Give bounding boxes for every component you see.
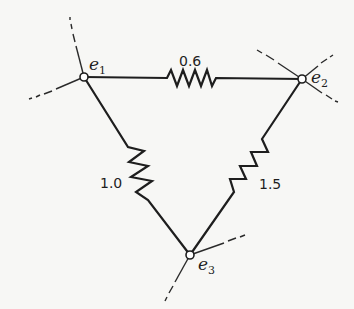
node-label-e2: e2 (311, 67, 328, 90)
resistance-label-e1-e2: 0.6 (179, 53, 201, 69)
node-e3 (186, 251, 194, 259)
stub-e3-upper-right-dash (228, 235, 245, 241)
node-label-e1: e1 (89, 54, 106, 77)
stub-e1-left-dash (29, 91, 52, 99)
edge-e1-e2-resistor (84, 70, 302, 86)
node-e2 (298, 75, 306, 83)
node-e1 (80, 73, 88, 81)
resistance-label-e2-e3: 1.5 (259, 176, 281, 192)
edge-e2-e3-resistor (190, 79, 302, 255)
stub-e2-lower-right-dash (326, 95, 338, 102)
node-label-e3: e3 (198, 254, 215, 277)
stub-e1-up (76, 46, 84, 77)
resistance-label-e1-e3: 1.0 (100, 175, 122, 191)
resistor-network-diagram: 0.6 1.0 1.5 e1 e2 e3 (0, 0, 354, 309)
stub-e2-upper-right-dash (321, 55, 333, 63)
edge-e1-e3-resistor (84, 77, 190, 255)
stub-e1-up-dash (70, 17, 75, 42)
stub-e2-upper-left-dash (257, 50, 274, 60)
stub-e3-lower-left-dash (165, 286, 173, 301)
